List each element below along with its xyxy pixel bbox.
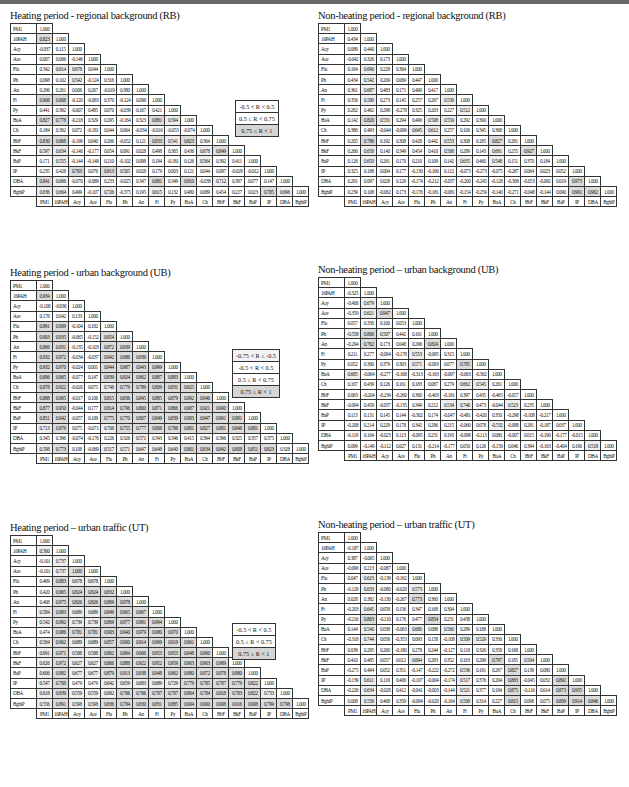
empty-cell (293, 64, 309, 74)
matrix-cell: 0.298 (377, 105, 393, 115)
matrix-cell: 0.932 (37, 352, 53, 362)
empty-cell (585, 573, 601, 583)
matrix-cell: 1.000 (553, 410, 569, 420)
matrix-row: Flu0.8910.909-0.1040.1821.000 (11, 321, 309, 331)
row-label: BkF (319, 655, 345, 665)
empty-cell (101, 34, 117, 44)
matrix-cell: 0.349 (393, 146, 409, 156)
matrix-cell: -0.294 (345, 339, 361, 349)
matrix-cell: 0.598 (37, 444, 53, 454)
matrix-cell: 1.000 (277, 433, 293, 443)
empty-cell (489, 318, 505, 328)
matrix-cell: 0.992 (53, 617, 69, 627)
empty-cell (293, 576, 309, 586)
empty-cell (569, 665, 585, 675)
empty-cell (553, 278, 569, 288)
matrix-cell: -0.481 (457, 410, 473, 420)
column-label: Ace (85, 197, 101, 207)
empty-cell (473, 64, 489, 74)
empty-cell (245, 281, 261, 291)
matrix-row: Py0.2620.4620.298-0.2780.3250.2030.2270.… (319, 105, 617, 115)
matrix-cell: 0.647 (133, 444, 149, 454)
matrix-cell: 0.441 (37, 105, 53, 115)
matrix-cell: 0.924 (117, 372, 133, 382)
matrix-cell: 0.914 (133, 637, 149, 647)
matrix-cell: 0.163 (457, 655, 473, 665)
row-label: Py (319, 614, 345, 624)
matrix-cell: 0.615 (149, 187, 165, 197)
column-label: BghiP (293, 709, 309, 719)
empty-cell (165, 34, 181, 44)
matrix-cell: 0.212 (425, 400, 441, 410)
matrix-cell: 0.597 (37, 146, 53, 156)
empty-cell (293, 166, 309, 176)
row-label: Flu (11, 321, 37, 331)
empty-cell (457, 583, 473, 593)
matrix-cell: 0.004 (377, 166, 393, 176)
matrix-cell: 0.679 (361, 298, 377, 308)
matrix-row: Ph-0.1290.633-0.080-0.0200.5731.000 (319, 583, 617, 593)
empty-cell (537, 359, 553, 369)
matrix-cell: 0.798 (165, 423, 181, 433)
matrix-row: Ft0.2110.277-0.094-0.1780.553-0.0950.315… (319, 349, 617, 359)
empty-cell (165, 331, 181, 341)
empty-cell (569, 614, 585, 624)
matrix-cell: 0.685 (345, 369, 361, 379)
empty-cell (489, 328, 505, 338)
matrix-cell: 0.989 (213, 658, 229, 668)
matrix-row: Py-0.2160.863-0.1100.1760.4770.8540.2310… (319, 614, 617, 624)
matrix-cell: 0.184 (37, 125, 53, 135)
column-label: Ft (149, 454, 165, 464)
matrix-cell: 0.090 (553, 187, 569, 197)
empty-cell (213, 125, 229, 135)
matrix-cell: 0.375 (261, 433, 277, 443)
empty-cell (521, 553, 537, 563)
empty-cell (261, 54, 277, 64)
matrix-cell: 0.158 (425, 634, 441, 644)
matrix-cell: -0.260 (393, 390, 409, 400)
matrix-cell: 0.626 (37, 658, 53, 668)
matrix-cell: 0.479 (85, 678, 101, 688)
empty-cell (569, 44, 585, 54)
empty-cell (293, 617, 309, 627)
matrix-row: BaP0.8510.942-0.0570.1090.7750.7700.8070… (11, 413, 309, 423)
matrix-cell: 0.046 (505, 441, 521, 451)
matrix-cell: 0.999 (149, 362, 165, 372)
matrix-cell: 0.356 (345, 95, 361, 105)
matrix-cell: 0.493 (361, 125, 377, 135)
empty-cell (197, 331, 213, 341)
empty-cell (277, 311, 293, 321)
legend-row: -0.5 < R < 0.5 (233, 362, 280, 374)
matrix-cell: 1.000 (181, 115, 197, 125)
empty-cell (521, 105, 537, 115)
matrix-cell: 0.028 (133, 166, 149, 176)
matrix-cell: 0.779 (117, 382, 133, 392)
empty-cell (213, 281, 229, 291)
matrix-cell: 0.694 (409, 655, 425, 665)
matrix-cell: 0.438 (457, 614, 473, 624)
matrix-cell: 0.447 (409, 74, 425, 84)
matrix-cell: -0.007 (69, 105, 85, 115)
matrix-cell: -0.164 (117, 115, 133, 125)
empty-cell (101, 281, 117, 291)
empty-cell (457, 85, 473, 95)
matrix-cell: 0.203 (425, 105, 441, 115)
empty-cell (85, 24, 101, 34)
matrix-cell: -0.024 (69, 362, 85, 372)
matrix-cell: 0.231 (425, 430, 441, 440)
empty-cell (585, 594, 601, 604)
matrix-cell: 0.474 (37, 627, 53, 637)
matrix-cell: -0.234 (377, 390, 393, 400)
matrix-cell: 0.188 (361, 166, 377, 176)
column-label: DBA (585, 451, 601, 461)
empty-cell (197, 105, 213, 115)
matrix-row: Ace-0.3590.6210.9471.000 (319, 308, 617, 318)
matrix-cell: 0.662 (457, 379, 473, 389)
empty-cell (489, 583, 505, 593)
matrix-cell: 0.555 (53, 156, 69, 166)
empty-cell (409, 34, 425, 44)
empty-cell (149, 597, 165, 607)
row-label: Ch (11, 637, 37, 647)
matrix-cell: 0.007 (37, 54, 53, 64)
matrix-cell: 0.346 (165, 433, 181, 443)
